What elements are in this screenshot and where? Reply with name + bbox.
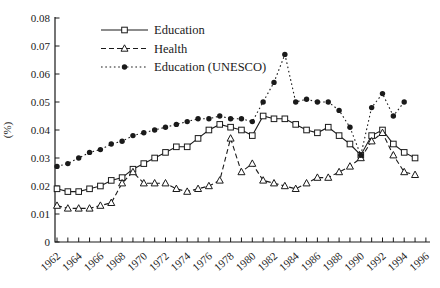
y-tick-label: 0.03: [31, 152, 51, 164]
y-tick-label: 0.04: [31, 124, 51, 136]
series-marker-1: [87, 186, 93, 192]
series-marker-1: [260, 113, 266, 119]
series-marker-3: [293, 99, 298, 104]
y-tick-label: 0: [45, 236, 51, 248]
x-tick-label: 1974: [168, 249, 193, 273]
series-marker-1: [271, 116, 277, 122]
x-tick-label: 1976: [190, 249, 215, 273]
series-marker-2: [303, 180, 310, 186]
series-marker-1: [65, 189, 71, 195]
series-marker-1: [239, 127, 245, 133]
series-marker-2: [205, 182, 212, 188]
y-tick-label: 0.05: [31, 96, 51, 108]
series-marker-1: [336, 133, 342, 139]
series-marker-3: [98, 147, 103, 152]
series-marker-1: [195, 136, 201, 142]
series-marker-2: [401, 168, 408, 174]
x-tick-label: 1994: [385, 249, 410, 273]
series-marker-3: [141, 130, 146, 135]
series-marker-1: [76, 189, 82, 195]
x-tick-label: 1970: [125, 249, 150, 273]
series-marker-3: [271, 80, 276, 85]
series-marker-3: [152, 127, 157, 132]
series-marker-1: [325, 124, 331, 130]
series-marker-2: [346, 163, 353, 169]
series-marker-3: [304, 97, 309, 102]
series-marker-1: [141, 161, 147, 167]
series-marker-2: [173, 185, 180, 191]
series-marker-3: [119, 139, 124, 144]
x-tick-label: 1962: [38, 250, 62, 274]
series-marker-1: [108, 178, 114, 184]
series-marker-1: [293, 122, 299, 128]
series-marker-3: [109, 141, 114, 146]
series-marker-2: [195, 185, 202, 191]
series-marker-3: [65, 161, 70, 166]
series-marker-3: [130, 133, 135, 138]
series-marker-3: [217, 113, 222, 118]
series-marker-1: [54, 186, 60, 192]
series-marker-3: [282, 52, 287, 57]
series-marker-3: [239, 116, 244, 121]
series-marker-3: [260, 99, 265, 104]
x-tick-label: 1996: [407, 249, 432, 273]
series-marker-1: [315, 130, 321, 136]
series-marker-2: [97, 202, 104, 208]
series-marker-1: [282, 116, 288, 122]
series-marker-3: [163, 125, 168, 130]
series-marker-2: [336, 168, 343, 174]
legend-label: Education: [154, 23, 205, 37]
series-marker-2: [238, 168, 245, 174]
series-marker-1: [217, 122, 223, 128]
series-marker-3: [358, 153, 363, 158]
x-tick-label: 1966: [81, 249, 106, 273]
x-tick-label: 1990: [342, 249, 367, 273]
series-marker-2: [227, 135, 234, 141]
series-marker-3: [380, 91, 385, 96]
series-marker-1: [174, 144, 180, 150]
series-marker-2: [108, 199, 115, 205]
series-marker-3: [228, 116, 233, 121]
series-marker-1: [152, 155, 158, 161]
y-tick-label: 0.01: [31, 208, 50, 220]
y-tick-label: 0.08: [31, 12, 51, 24]
series-marker-3: [206, 116, 211, 121]
series-marker-3: [250, 119, 255, 124]
series-marker-1: [412, 155, 418, 161]
legend-marker-circle-filled: [122, 64, 127, 69]
series-marker-1: [391, 141, 397, 147]
x-tick-label: 1986: [298, 249, 323, 273]
series-marker-2: [249, 160, 256, 166]
x-tick-label: 1968: [103, 249, 128, 273]
legend-marker-square-open: [122, 27, 128, 33]
series-marker-2: [412, 171, 419, 177]
x-tick-label: 1978: [212, 249, 237, 273]
x-tick-label: 1972: [146, 250, 170, 274]
y-tick-label: 0.06: [31, 68, 51, 80]
series-marker-3: [174, 122, 179, 127]
series-marker-1: [184, 144, 190, 150]
series-marker-3: [185, 119, 190, 124]
y-axis-label: (%): [1, 121, 14, 138]
series-marker-3: [369, 105, 374, 110]
x-tick-label: 1964: [60, 249, 85, 273]
x-tick-label: 1992: [363, 250, 387, 274]
series-marker-1: [98, 183, 104, 189]
series-marker-3: [54, 164, 59, 169]
series-marker-3: [315, 99, 320, 104]
x-tick-label: 1984: [277, 249, 302, 273]
series-marker-3: [391, 113, 396, 118]
x-tick-label: 1988: [320, 249, 345, 273]
series-marker-3: [87, 150, 92, 155]
series-marker-3: [326, 99, 331, 104]
series-marker-3: [195, 116, 200, 121]
series-marker-1: [347, 141, 353, 147]
series-marker-3: [76, 155, 81, 160]
series-marker-1: [163, 150, 169, 156]
y-tick-label: 0.02: [31, 180, 50, 192]
series-marker-2: [390, 152, 397, 158]
series-marker-3: [402, 99, 407, 104]
series-marker-1: [228, 124, 234, 130]
series-marker-2: [325, 174, 332, 180]
line-chart: 00.010.020.030.040.050.060.070.08(%)1962…: [0, 0, 440, 288]
